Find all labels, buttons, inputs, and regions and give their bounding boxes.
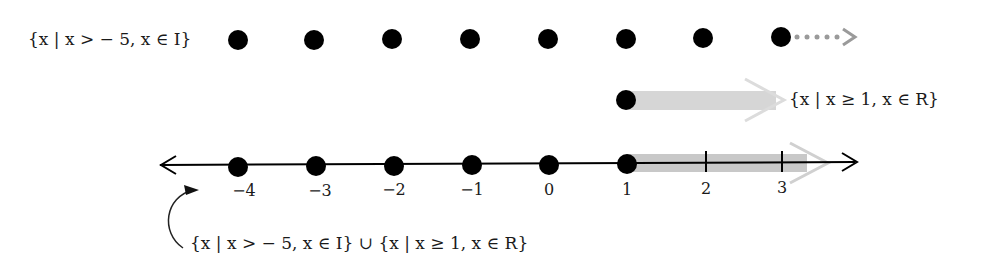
tick-label: −3 xyxy=(300,183,340,199)
tick-label: 1 xyxy=(607,182,647,198)
tick-label: 2 xyxy=(686,181,726,197)
tick-label: −4 xyxy=(224,183,264,199)
tick-label: 3 xyxy=(762,180,802,196)
integer-set-dots xyxy=(228,27,791,50)
number-line xyxy=(160,143,857,183)
tick-label: 0 xyxy=(529,182,569,198)
real-set-label: {x | x ≥ 1, x ∈ R} xyxy=(789,91,939,108)
tick-label: −2 xyxy=(374,182,414,198)
integer-set-label: {x | x > − 5, x ∈ I} xyxy=(28,31,191,48)
real-set-ray xyxy=(616,79,784,121)
dotted-arrow-icon xyxy=(795,29,856,45)
tick-label: −1 xyxy=(452,182,492,198)
union-label: {x | x > − 5, x ∈ I} ∪ {x | x ≥ 1, x ∈ R… xyxy=(190,235,528,252)
